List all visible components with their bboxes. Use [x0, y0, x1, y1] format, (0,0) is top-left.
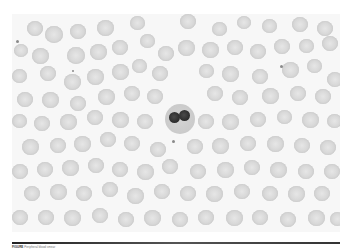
red-blood-cell — [60, 114, 77, 130]
red-blood-cell — [76, 186, 92, 201]
red-blood-cell — [62, 160, 79, 176]
red-blood-cell — [152, 66, 168, 81]
red-blood-cell — [50, 184, 67, 200]
caption-label: FIGURE — [12, 245, 23, 249]
red-blood-cell — [132, 59, 147, 73]
red-blood-cell — [12, 69, 27, 83]
blood-smear-micrograph — [12, 14, 340, 232]
red-blood-cell — [112, 40, 128, 55]
red-blood-cell — [137, 114, 153, 129]
red-blood-cell — [87, 110, 103, 125]
red-blood-cell — [277, 110, 292, 124]
red-blood-cell — [64, 210, 81, 226]
red-blood-cell — [190, 164, 206, 179]
red-blood-cell — [45, 26, 63, 43]
red-blood-cell — [144, 210, 161, 226]
red-blood-cell — [37, 162, 53, 177]
red-blood-cell — [150, 142, 166, 157]
red-blood-cell — [317, 21, 333, 36]
red-blood-cell — [40, 66, 56, 81]
red-blood-cell — [158, 46, 174, 61]
red-blood-cell — [14, 44, 28, 57]
red-blood-cell — [294, 138, 310, 153]
red-blood-cell — [250, 112, 266, 127]
red-blood-cell — [12, 164, 28, 179]
red-blood-cell — [178, 40, 195, 56]
red-blood-cell — [88, 158, 104, 173]
red-blood-cell — [64, 74, 81, 90]
red-blood-cell — [24, 186, 40, 201]
red-blood-cell — [315, 89, 331, 104]
red-blood-cell — [212, 22, 227, 36]
red-blood-cell — [180, 14, 196, 29]
red-blood-cell — [97, 20, 114, 36]
red-blood-cell — [180, 186, 196, 201]
red-blood-cell — [137, 164, 154, 180]
red-blood-cell — [199, 64, 214, 78]
red-blood-cell — [74, 136, 91, 152]
red-blood-cell — [280, 212, 296, 227]
red-blood-cell — [290, 86, 306, 101]
red-blood-cell — [118, 212, 134, 227]
red-blood-cell — [102, 182, 118, 197]
red-blood-cell — [252, 69, 268, 84]
red-blood-cell — [244, 160, 260, 175]
red-blood-cell — [206, 186, 223, 202]
red-blood-cell — [330, 212, 340, 226]
red-blood-cell — [140, 34, 155, 48]
platelet — [72, 70, 74, 72]
red-blood-cell — [34, 116, 50, 131]
platelet — [280, 65, 283, 68]
red-blood-cell — [154, 184, 170, 199]
red-blood-cell — [38, 210, 54, 225]
red-blood-cell — [222, 114, 239, 130]
red-blood-cell — [226, 210, 243, 226]
red-blood-cell — [262, 88, 279, 104]
red-blood-cell — [314, 186, 330, 201]
red-blood-cell — [298, 164, 314, 179]
red-blood-cell — [98, 89, 115, 105]
red-blood-cell — [250, 44, 266, 59]
red-blood-cell — [327, 114, 340, 128]
nucleus-lobe — [179, 110, 190, 121]
red-blood-cell — [70, 24, 86, 39]
red-blood-cell — [124, 136, 140, 151]
red-blood-cell — [147, 89, 163, 104]
red-blood-cell — [320, 140, 336, 155]
red-blood-cell — [262, 19, 277, 33]
red-blood-cell — [324, 164, 340, 179]
red-blood-cell — [22, 139, 39, 155]
red-blood-cell — [262, 186, 278, 201]
red-blood-cell — [202, 42, 219, 58]
red-blood-cell — [292, 17, 308, 32]
red-blood-cell — [240, 136, 256, 151]
red-blood-cell — [212, 138, 229, 154]
red-blood-cell — [27, 21, 43, 36]
figure-caption: FIGURE Peripheral blood smear — [12, 245, 55, 249]
red-blood-cell — [237, 16, 251, 29]
red-blood-cell — [130, 16, 145, 30]
red-blood-cell — [274, 39, 290, 54]
caption-divider — [12, 242, 340, 244]
red-blood-cell — [12, 210, 28, 225]
red-blood-cell — [207, 86, 223, 101]
red-blood-cell — [282, 62, 299, 78]
red-blood-cell — [70, 96, 86, 111]
red-blood-cell — [92, 208, 108, 223]
red-blood-cell — [267, 136, 284, 152]
red-blood-cell — [17, 92, 33, 107]
red-blood-cell — [227, 40, 243, 55]
red-blood-cell — [217, 162, 234, 178]
red-blood-cell — [112, 162, 128, 177]
platelet — [16, 40, 19, 43]
red-blood-cell — [187, 139, 203, 154]
red-blood-cell — [234, 184, 250, 199]
red-blood-cell — [90, 44, 107, 60]
red-blood-cell — [112, 64, 129, 80]
red-blood-cell — [198, 210, 214, 225]
red-blood-cell — [299, 39, 314, 53]
platelet — [172, 140, 175, 143]
red-blood-cell — [32, 48, 49, 64]
red-blood-cell — [124, 86, 140, 101]
red-blood-cell — [252, 210, 268, 225]
